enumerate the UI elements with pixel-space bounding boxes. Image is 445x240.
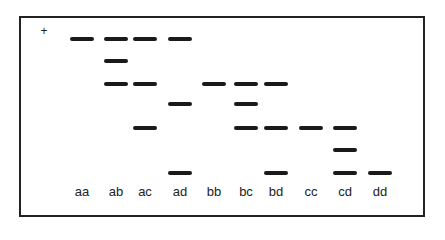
lane-label-ad: ad: [165, 184, 195, 200]
lane-label-bb: bb: [199, 184, 229, 200]
band-cd-row-7: [333, 171, 357, 175]
band-bd-row-5: [264, 126, 288, 130]
band-bc-row-5: [234, 126, 258, 130]
lane-label-cd: cd: [330, 184, 360, 200]
band-ab-row-1: [104, 37, 128, 41]
band-ad-row-7: [168, 171, 192, 175]
band-bc-row-3: [234, 82, 258, 86]
lane-label-cc: cc: [296, 184, 326, 200]
band-aa-row-1: [70, 37, 94, 41]
band-bd-row-7: [264, 171, 288, 175]
lane-label-ab: ab: [101, 184, 131, 200]
band-ad-row-4: [168, 102, 192, 106]
band-ad-row-1: [168, 37, 192, 41]
polarity-plus-sign: +: [38, 24, 50, 38]
lane-label-aa: aa: [67, 184, 97, 200]
lane-label-bc: bc: [231, 184, 261, 200]
band-cd-row-6: [333, 148, 357, 152]
lane-label-bd: bd: [261, 184, 291, 200]
band-ac-row-1: [133, 37, 157, 41]
lane-label-ac: ac: [130, 184, 160, 200]
band-ab-row-3: [104, 82, 128, 86]
band-dd-row-7: [368, 171, 392, 175]
band-ac-row-3: [133, 82, 157, 86]
band-bd-row-3: [264, 82, 288, 86]
band-bc-row-4: [234, 102, 258, 106]
band-bb-row-3: [202, 82, 226, 86]
band-cd-row-5: [333, 126, 357, 130]
band-cc-row-5: [299, 126, 323, 130]
band-ab-row-2: [104, 59, 128, 63]
lane-label-dd: dd: [365, 184, 395, 200]
band-ac-row-5: [133, 126, 157, 130]
